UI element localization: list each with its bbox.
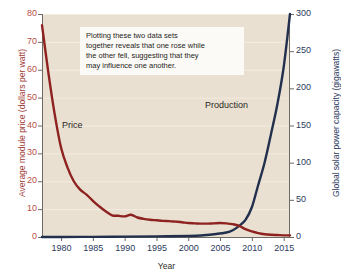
- axis-tick-label: 80: [6, 8, 37, 18]
- annotation-note: Plotting these two data sets together re…: [80, 27, 244, 75]
- left-axis-tick-marks: [38, 15, 42, 238]
- price-series-label: Price: [62, 120, 83, 130]
- axis-tick-label: 70: [6, 36, 37, 46]
- axis-tick-label: 0: [6, 231, 37, 241]
- axis-tick-label: 100: [296, 157, 326, 167]
- axis-tick-label: 0: [296, 231, 326, 241]
- note-line-2: together reveals that one rose while: [86, 41, 239, 51]
- axis-tick-label: 60: [6, 64, 37, 74]
- axis-tick-label: 150: [296, 120, 326, 130]
- axis-tick-label: 50: [6, 92, 37, 102]
- axis-tick-label: 1990: [109, 243, 141, 253]
- note-line-3: the other fell, suggesting that they: [86, 51, 239, 61]
- axis-tick-label: 250: [296, 45, 326, 55]
- axis-tick-label: 20: [6, 175, 37, 185]
- axis-tick-label: 2000: [173, 243, 205, 253]
- axis-tick-label: 1985: [77, 243, 109, 253]
- axis-tick-label: 2010: [236, 243, 268, 253]
- axis-tick-label: 1980: [46, 243, 78, 253]
- axis-tick-label: 2005: [205, 243, 237, 253]
- right-axis-tick-marks: [290, 15, 294, 238]
- note-line-1: Plotting these two data sets: [86, 31, 239, 41]
- axis-tick-label: 40: [6, 120, 37, 130]
- x-axis-title: Year: [0, 261, 333, 271]
- axis-tick-label: 200: [296, 82, 326, 92]
- axis-tick-label: 10: [6, 203, 37, 213]
- axis-tick-label: 1995: [141, 243, 173, 253]
- axis-tick-label: 2015: [268, 243, 300, 253]
- note-line-4: may influence one another.: [86, 61, 239, 71]
- axis-tick-label: 30: [6, 147, 37, 157]
- axis-tick-label: 50: [296, 194, 326, 204]
- right-axis-title: Global solar power capacity (gigawatts): [331, 13, 341, 233]
- axis-tick-label: 300: [296, 8, 326, 18]
- production-series-label: Production: [205, 100, 248, 110]
